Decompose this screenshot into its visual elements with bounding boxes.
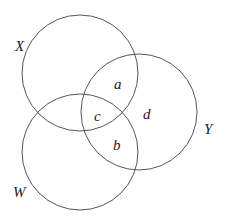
region-label-b: b: [113, 137, 121, 153]
venn-svg: X Y W a c d b: [0, 0, 226, 220]
circle-x: [22, 15, 138, 131]
venn-diagram: X Y W a c d b: [0, 0, 226, 220]
set-label-w: W: [13, 184, 27, 200]
set-label-y: Y: [204, 121, 214, 137]
circle-w: [22, 94, 138, 210]
set-label-x: X: [14, 38, 25, 54]
region-label-d: d: [143, 106, 151, 122]
region-label-c: c: [94, 108, 101, 124]
region-label-a: a: [114, 76, 122, 92]
